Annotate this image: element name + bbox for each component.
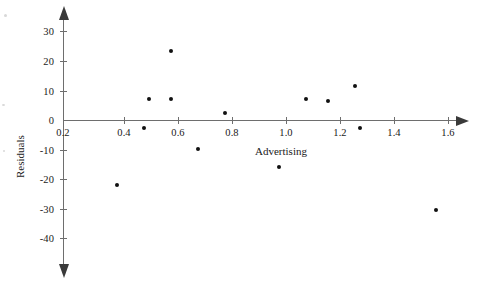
data-point <box>142 126 146 130</box>
x-axis-line <box>63 120 459 121</box>
y-tick-label: -20 <box>25 174 54 185</box>
x-tick-label: 1.2 <box>333 127 346 138</box>
data-point <box>147 97 151 101</box>
x-tick-mark <box>124 117 125 124</box>
data-point <box>169 49 173 53</box>
x-tick-mark <box>63 117 64 124</box>
data-point <box>169 97 173 101</box>
y-tick-label: -10 <box>25 145 54 156</box>
x-tick-mark <box>178 117 179 124</box>
y-tick-label: 0 <box>28 115 54 126</box>
y-tick-mark <box>60 179 67 180</box>
y-axis-line <box>63 18 64 268</box>
y-tick-mark <box>60 91 67 92</box>
x-tick-label: 0.8 <box>225 127 238 138</box>
y-tick-label: -30 <box>25 204 54 215</box>
paper-speck <box>4 14 7 17</box>
scatter-plot-figure: 0.2 0.4 0.6 0.8 1.0 1.2 1.4 1.6 30 20 10… <box>0 0 485 294</box>
y-tick-label: 30 <box>28 26 54 37</box>
paper-speck <box>2 104 5 106</box>
data-point <box>326 99 330 103</box>
x-axis-title: Advertising <box>255 145 307 157</box>
x-tick-mark <box>232 117 233 124</box>
x-tick-label: 1.6 <box>441 127 454 138</box>
y-tick-mark <box>60 31 67 32</box>
paper-speck <box>3 150 5 152</box>
y-axis-title: Residuals <box>14 135 26 178</box>
y-axis-arrow-down-icon <box>59 264 69 278</box>
x-tick-mark <box>394 117 395 124</box>
x-tick-label: 1.0 <box>279 127 292 138</box>
x-tick-mark <box>340 117 341 124</box>
data-point <box>277 165 281 169</box>
y-tick-mark <box>60 238 67 239</box>
data-point <box>434 208 438 212</box>
x-tick-label: 0.4 <box>117 127 130 138</box>
y-tick-mark <box>60 150 67 151</box>
x-tick-label: 0.2 <box>56 127 69 138</box>
y-tick-label: -40 <box>25 233 54 244</box>
data-point <box>353 84 357 88</box>
data-point <box>304 97 308 101</box>
data-point <box>223 111 227 115</box>
x-axis-arrow-icon <box>456 116 469 126</box>
data-point <box>115 183 119 187</box>
y-tick-label: 10 <box>28 86 54 97</box>
x-tick-mark <box>286 117 287 124</box>
y-tick-mark <box>60 61 67 62</box>
y-tick-mark <box>60 209 67 210</box>
data-point <box>196 147 200 151</box>
x-tick-mark <box>448 117 449 124</box>
y-axis-arrow-up-icon <box>59 6 69 20</box>
data-point <box>358 126 362 130</box>
y-tick-label: 20 <box>28 56 54 67</box>
x-tick-label: 1.4 <box>387 127 400 138</box>
x-tick-label: 0.6 <box>171 127 184 138</box>
plot-area: 0.2 0.4 0.6 0.8 1.0 1.2 1.4 1.6 30 20 10… <box>0 0 485 294</box>
